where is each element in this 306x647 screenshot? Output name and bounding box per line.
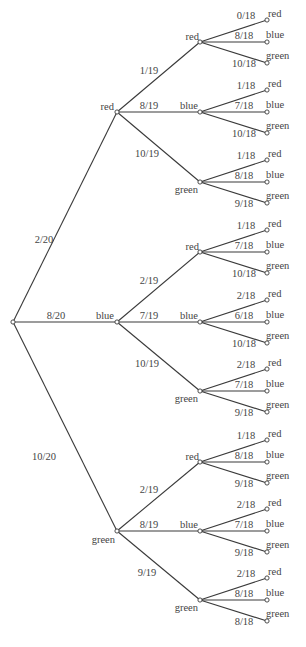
node-red-green [198,180,202,184]
leaf-prob: 7/18 [235,519,254,530]
leaf-prob: 0/18 [237,10,256,21]
leaf-prob: 9/18 [235,198,254,209]
leaf-node-blue [265,460,269,464]
node-blue-green [198,389,202,393]
leaf-label: red [268,8,282,19]
leaf-node-green [265,410,269,414]
leaf-node-green [265,341,269,345]
leaf-label: green [266,190,290,201]
node-green [115,529,119,533]
leaf-label: blue [266,99,284,110]
edge-prob-red: 2/20 [35,234,54,245]
node-label: red [186,31,200,42]
leaf-label: green [266,608,290,619]
node-label: blue [180,519,198,530]
leaf-label: red [268,288,282,299]
leaf-label: red [268,357,282,368]
edge-leaf [200,440,267,462]
leaf-label: green [266,120,290,131]
leaf-prob: 6/18 [235,310,254,321]
leaf-label: blue [266,449,284,460]
node-label-red: red [101,101,115,112]
leaf-prob: 1/18 [237,220,256,231]
edge-leaf [200,230,267,252]
leaf-label: red [268,148,282,159]
leaf-node-blue [265,40,269,44]
node-blue-blue [198,320,202,324]
leaf-label: blue [266,169,284,180]
leaf-prob: 1/18 [237,430,256,441]
edge-leaf [200,90,267,112]
edge-prob: 7/19 [140,310,159,321]
probability-tree-diagram: red2/20red1/19red0/18blue8/18green10/18b… [0,0,306,647]
leaf-node-blue [265,320,269,324]
edge-leaf [200,391,267,412]
leaf-node-green [265,271,269,275]
leaf-label: blue [266,239,284,250]
leaf-prob: 10/18 [232,128,256,139]
edge-prob: 2/19 [140,484,159,495]
edge-prob-green: 10/20 [32,451,56,462]
leaf-label: blue [266,309,284,320]
leaf-prob: 8/18 [235,30,254,41]
leaf-prob: 10/18 [232,268,256,279]
leaf-prob: 8/18 [235,170,254,181]
leaf-prob: 1/18 [237,150,256,161]
leaf-node-green [265,619,269,623]
edge-leaf [200,160,267,182]
leaf-node-green [265,131,269,135]
edge-leaf [200,182,267,203]
leaf-prob: 2/18 [237,499,256,510]
labels: red2/20red1/19red0/18blue8/18green10/18b… [32,8,290,627]
leaf-prob: 9/18 [235,478,254,489]
leaf-label: red [268,566,282,577]
edge-leaf [200,369,267,391]
leaf-node-blue [265,180,269,184]
leaf-prob: 10/18 [232,338,256,349]
node-label-green: green [92,534,116,545]
leaf-prob: 9/18 [235,547,254,558]
edge-root-green [13,322,117,531]
leaf-prob: 8/18 [235,450,254,461]
leaf-label: red [268,497,282,508]
root-node [11,320,15,324]
edge-green-green [117,531,200,600]
leaf-label: green [266,260,290,271]
leaf-node-green [265,481,269,485]
edge-prob: 8/19 [140,100,159,111]
leaf-prob: 1/18 [237,80,256,91]
leaf-label: green [266,50,290,61]
node-label: blue [180,100,198,111]
node-label: blue [180,310,198,321]
leaf-label: blue [266,587,284,598]
edge-leaf [200,20,267,42]
node-green-blue [198,529,202,533]
edge-leaf [200,578,267,600]
edge-leaf [200,300,267,322]
node-label: green [175,393,199,404]
node-green-green [198,598,202,602]
leaf-label: green [266,399,290,410]
node-label: red [186,451,200,462]
node-blue [115,320,119,324]
leaf-prob: 8/18 [235,588,254,599]
edge-prob: 1/19 [140,65,159,76]
leaf-prob: 2/18 [237,290,256,301]
leaf-prob: 2/18 [237,568,256,579]
leaf-label: green [266,539,290,550]
leaf-node-blue [265,250,269,254]
leaf-label: red [268,218,282,229]
edge-prob: 8/19 [140,519,159,530]
leaf-label: blue [266,378,284,389]
edge-leaf [200,509,267,531]
edge-prob: 10/19 [135,358,159,369]
leaf-label: green [266,330,290,341]
edge-red-green [117,112,200,182]
leaf-node-blue [265,389,269,393]
node-label: red [186,241,200,252]
leaf-prob: 7/18 [235,379,254,390]
leaf-node-green [265,550,269,554]
node-red-blue [198,110,202,114]
node-label: green [175,184,199,195]
leaf-prob: 7/18 [235,240,254,251]
